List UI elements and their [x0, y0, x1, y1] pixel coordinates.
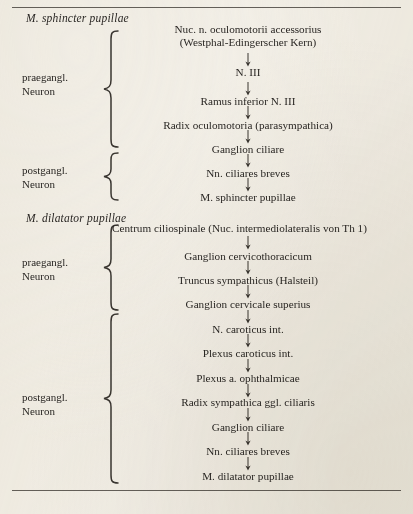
- flow-node: M. dilatator pupillae: [202, 470, 294, 483]
- label-line-2: Neuron: [22, 405, 68, 419]
- section-title-sphincter: M. sphincter pupillae: [26, 12, 129, 24]
- flow-node-line1: Nuc. n. oculomotorii accessorius: [175, 23, 322, 35]
- down-arrow-icon: [244, 236, 253, 250]
- brace-praeganglionic-dilatator: [103, 224, 119, 311]
- down-arrow-icon: [244, 334, 253, 348]
- top-horizontal-rule: [12, 7, 401, 8]
- down-arrow-icon: [244, 82, 253, 96]
- label-praegangl-neuron-dilatator: praegangl. Neuron: [22, 256, 68, 283]
- down-arrow-icon: [244, 408, 253, 422]
- label-line-2: Neuron: [22, 85, 68, 99]
- flow-node: Centrum ciliospinale (Nuc. intermediolat…: [112, 222, 367, 235]
- down-arrow-icon: [244, 130, 253, 144]
- label-praegangl-neuron-sphincter: praegangl. Neuron: [22, 71, 68, 98]
- label-postgangl-neuron-dilatator: postgangl. Neuron: [22, 391, 68, 418]
- down-arrow-icon: [244, 106, 253, 120]
- flow-node: Nuc. n. oculomotorii accessorius (Westph…: [175, 23, 322, 49]
- brace-postganglionic-dilatator: [103, 313, 119, 484]
- label-line-1: postgangl.: [22, 164, 68, 178]
- brace-postganglionic-sphincter: [103, 152, 119, 201]
- down-arrow-icon: [244, 261, 253, 275]
- flow-node: M. sphincter pupillae: [200, 191, 295, 204]
- label-line-2: Neuron: [22, 270, 68, 284]
- down-arrow-icon: [244, 432, 253, 446]
- down-arrow-icon: [244, 310, 253, 324]
- label-line-1: praegangl.: [22, 71, 68, 85]
- down-arrow-icon: [244, 457, 253, 471]
- label-line-1: postgangl.: [22, 391, 68, 405]
- scanned-page: M. sphincter pupillae praegangl. Neuron …: [0, 0, 413, 514]
- flow-node-line2: (Westphal-Edingerscher Kern): [175, 36, 322, 49]
- bottom-horizontal-rule: [12, 490, 401, 491]
- down-arrow-icon: [244, 178, 253, 192]
- down-arrow-icon: [244, 359, 253, 373]
- down-arrow-icon: [244, 285, 253, 299]
- label-line-1: praegangl.: [22, 256, 68, 270]
- label-postgangl-neuron-sphincter: postgangl. Neuron: [22, 164, 68, 191]
- down-arrow-icon: [244, 53, 253, 67]
- label-line-2: Neuron: [22, 178, 68, 192]
- down-arrow-icon: [244, 154, 253, 168]
- flow-node: N. III: [236, 66, 261, 79]
- brace-praeganglionic-sphincter: [103, 30, 119, 148]
